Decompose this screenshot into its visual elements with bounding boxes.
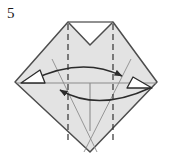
origami-diagram [0,0,191,164]
figure-container: 5 [0,0,191,164]
